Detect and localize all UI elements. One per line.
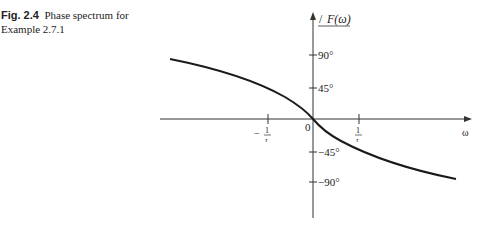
origin-label: 0 (305, 121, 311, 133)
tick-minus-tau-den: τ (265, 136, 268, 144)
tick-minus-tau-sign: − (254, 128, 260, 139)
tick-90: 90° (318, 49, 333, 61)
y-axis-angle-symbol: / (319, 12, 323, 26)
tick-minus-90: −90° (318, 176, 340, 188)
y-axis-arrow-icon (310, 12, 316, 20)
x-axis-label: ω (462, 127, 469, 138)
tick-minus-tau-num: 1 (265, 126, 269, 135)
tick-45: 45° (318, 82, 333, 94)
tick-minus-45: −45° (318, 146, 340, 158)
x-axis-arrow-icon (464, 116, 472, 122)
tick-tau-num: 1 (356, 126, 360, 135)
phase-plot: / F(ω) 90° 45° −45° −90° − 1 τ 1 τ 0 ω (0, 0, 483, 228)
tick-tau-den: τ (356, 136, 359, 144)
y-axis-label: F(ω) (326, 12, 351, 26)
